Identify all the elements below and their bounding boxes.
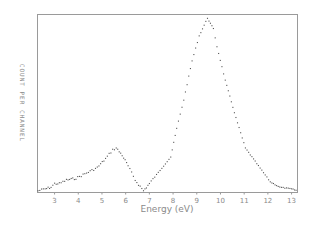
data-point — [283, 187, 284, 188]
data-point — [160, 170, 161, 171]
data-point — [37, 190, 38, 191]
data-point — [202, 28, 203, 29]
data-point — [195, 47, 196, 48]
data-point — [45, 188, 46, 189]
data-point — [129, 168, 130, 169]
x-tick-label: 6 — [123, 197, 128, 205]
data-point — [200, 32, 201, 33]
data-point — [271, 182, 272, 183]
data-point — [237, 122, 238, 123]
data-point — [41, 188, 42, 189]
data-point — [110, 152, 111, 153]
data-point — [114, 149, 115, 150]
data-point — [161, 168, 162, 169]
data-point — [180, 114, 181, 115]
data-point — [197, 42, 198, 43]
data-point — [205, 21, 206, 22]
x-axis-label: Energy (eV) — [140, 204, 193, 214]
data-point — [220, 60, 221, 61]
data-point — [294, 189, 295, 190]
data-point — [266, 176, 267, 177]
data-point — [232, 107, 233, 108]
data-point — [146, 187, 147, 188]
data-point — [66, 179, 67, 180]
data-point — [289, 188, 290, 189]
data-point — [296, 190, 297, 191]
data-point — [187, 84, 188, 85]
data-point — [176, 128, 177, 129]
data-point — [208, 21, 209, 22]
data-point — [199, 35, 200, 36]
data-point — [69, 179, 70, 180]
data-point — [90, 170, 91, 171]
x-tick-label: 3 — [52, 197, 56, 205]
data-point — [86, 173, 87, 174]
data-point — [123, 158, 124, 159]
data-point — [158, 172, 159, 173]
data-point — [251, 156, 252, 157]
data-point — [83, 174, 84, 175]
data-point — [100, 163, 101, 164]
x-tick-label: 11 — [240, 197, 249, 205]
data-point — [256, 163, 257, 164]
x-tick-label: 12 — [263, 197, 272, 205]
data-point — [273, 183, 274, 184]
data-point — [229, 95, 230, 96]
data-point — [235, 117, 236, 118]
data-point — [97, 166, 98, 167]
data-point — [72, 177, 73, 178]
data-point — [258, 165, 259, 166]
data-point — [246, 150, 247, 151]
data-point — [75, 179, 76, 180]
data-point — [286, 187, 287, 188]
data-point — [117, 149, 118, 150]
data-point — [84, 173, 85, 174]
data-point — [281, 187, 282, 188]
data-point — [49, 188, 50, 189]
data-point — [122, 155, 123, 156]
data-point — [228, 90, 229, 91]
data-point — [138, 185, 139, 186]
data-point — [102, 161, 103, 162]
data-point — [263, 172, 264, 173]
data-point — [143, 190, 144, 191]
data-point — [279, 186, 280, 187]
data-point — [48, 187, 49, 188]
data-point — [144, 188, 145, 189]
data-point — [46, 188, 47, 189]
data-point — [54, 183, 55, 184]
data-point — [245, 147, 246, 148]
data-point — [181, 107, 182, 108]
data-point — [218, 53, 219, 54]
data-point — [253, 158, 254, 159]
data-point — [207, 18, 208, 19]
data-point — [128, 165, 129, 166]
data-points — [37, 18, 296, 192]
data-point — [43, 188, 44, 189]
data-point — [152, 178, 153, 179]
data-point — [136, 182, 137, 183]
data-point — [274, 184, 275, 185]
data-point — [119, 151, 120, 152]
data-point — [151, 180, 152, 181]
data-point — [51, 187, 52, 188]
data-point — [284, 188, 285, 189]
data-point — [133, 176, 134, 177]
x-tick-label: 5 — [100, 197, 104, 205]
data-point — [81, 176, 82, 177]
data-point — [168, 159, 169, 160]
data-point — [190, 68, 191, 69]
data-point — [221, 66, 222, 67]
data-point — [242, 137, 243, 138]
data-point — [95, 168, 96, 169]
data-point — [270, 181, 271, 182]
data-point — [141, 188, 142, 189]
data-point — [243, 142, 244, 143]
data-point — [193, 54, 194, 55]
data-point — [149, 183, 150, 184]
data-point — [172, 149, 173, 150]
data-point — [103, 161, 104, 162]
data-point — [265, 174, 266, 175]
data-point — [223, 73, 224, 74]
data-point — [268, 179, 269, 180]
